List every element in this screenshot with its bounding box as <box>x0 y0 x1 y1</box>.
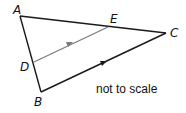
diagram-canvas: A E C D B not to scale <box>0 0 186 113</box>
segment-ab <box>20 16 41 92</box>
segment-de <box>34 27 108 62</box>
not-to-scale-note: not to scale <box>96 82 158 96</box>
label-e: E <box>110 12 118 26</box>
label-b: B <box>34 95 42 109</box>
parallel-arrow-icon <box>100 61 107 66</box>
label-c: C <box>170 26 179 40</box>
segment-ac <box>20 16 166 33</box>
label-d: D <box>20 60 29 74</box>
label-a: A <box>12 3 21 17</box>
triangle-diagram: A E C D B not to scale <box>0 0 186 113</box>
